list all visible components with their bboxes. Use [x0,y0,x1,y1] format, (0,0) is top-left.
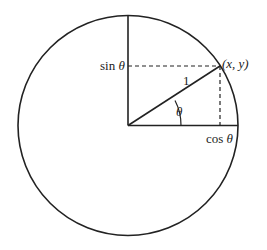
cos-theta-label: cos θ [206,131,234,146]
point-label: (x, y) [222,56,249,71]
theta-label: θ [176,104,183,119]
radius-line [128,66,220,126]
radius-label: 1 [183,73,190,88]
unit-circle-diagram: sin θ cos θ 1 θ (x, y) [0,0,267,250]
sin-theta-label: sin θ [100,58,125,73]
